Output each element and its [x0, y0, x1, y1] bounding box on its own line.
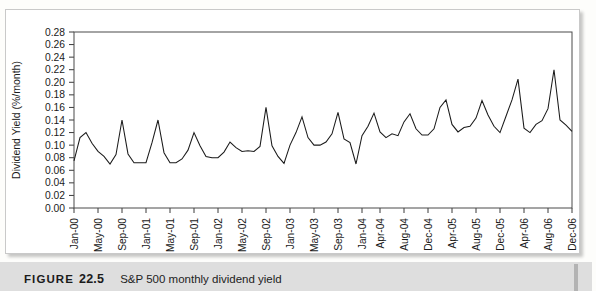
- figure-caption-bar: FIGURE22.5S&P 500 monthly dividend yield: [0, 262, 592, 291]
- x-tick-label: Dec-04: [423, 218, 434, 251]
- scanned-page-background: Dividend Yield (%/month) 0.000.020.040.0…: [0, 0, 596, 291]
- plot-area-border: [74, 32, 572, 208]
- x-tick-label: May-00: [93, 218, 104, 252]
- x-tick-label: Jan-00: [69, 218, 80, 249]
- caption-figure-word: FIGURE: [24, 273, 74, 285]
- x-tick-label: Apr-04: [375, 218, 386, 249]
- x-tick-label: Aug-06: [543, 218, 554, 251]
- x-tick-label: May-01: [165, 218, 176, 252]
- y-axis-title-group: Dividend Yield (%/month): [10, 61, 22, 179]
- x-tick-label: Jan-02: [213, 218, 224, 249]
- x-tick-label: Sep-00: [117, 218, 128, 251]
- caption-figure-number: 22.5: [79, 272, 104, 286]
- x-tick-label: Dec-05: [495, 218, 506, 251]
- y-tick-label: 0.12: [45, 127, 65, 138]
- y-axis-title: Dividend Yield (%/month): [10, 61, 22, 179]
- figure-caption: FIGURE22.5S&P 500 monthly dividend yield: [24, 269, 282, 287]
- figure-frame: Dividend Yield (%/month) 0.000.020.040.0…: [5, 9, 580, 254]
- x-tick-label: Apr-05: [447, 218, 458, 249]
- y-tick-label: 0.20: [45, 77, 65, 88]
- y-axis-ticks-group: 0.000.020.040.060.080.100.120.140.160.18…: [45, 27, 74, 214]
- dividend-yield-chart: Dividend Yield (%/month) 0.000.020.040.0…: [6, 10, 581, 255]
- y-tick-label: 0.18: [45, 89, 65, 100]
- caption-title: S&P 500 monthly dividend yield: [120, 273, 282, 285]
- x-axis-ticks-group: Jan-00May-00Sep-00Jan-01May-01Sep-01Jan-…: [69, 208, 578, 252]
- y-tick-label: 0.16: [45, 102, 65, 113]
- y-tick-label: 0.00: [45, 203, 65, 214]
- x-tick-label: Jan-01: [141, 218, 152, 249]
- x-tick-label: Aug-05: [471, 218, 482, 251]
- y-tick-label: 0.28: [45, 27, 65, 38]
- plot-frame-group: [74, 32, 572, 208]
- y-tick-label: 0.02: [45, 190, 65, 201]
- chart-svg: Dividend Yield (%/month) 0.000.020.040.0…: [6, 10, 581, 255]
- x-tick-label: Sep-01: [189, 218, 200, 251]
- x-tick-label: Sep-03: [333, 218, 344, 251]
- x-tick-label: Jan-04: [357, 218, 368, 249]
- y-tick-label: 0.10: [45, 140, 65, 151]
- x-tick-label: Dec-06: [567, 218, 578, 251]
- y-tick-label: 0.26: [45, 39, 65, 50]
- x-tick-label: Sep-02: [261, 218, 272, 251]
- x-tick-label: May-03: [309, 218, 320, 252]
- y-tick-label: 0.24: [45, 52, 65, 63]
- y-tick-label: 0.06: [45, 165, 65, 176]
- x-tick-label: Apr-06: [519, 218, 530, 249]
- y-tick-label: 0.22: [45, 64, 65, 75]
- y-tick-label: 0.14: [45, 115, 65, 126]
- x-tick-label: Jan-03: [285, 218, 296, 249]
- y-tick-label: 0.08: [45, 152, 65, 163]
- x-tick-label: Aug-04: [399, 218, 410, 251]
- y-tick-label: 0.04: [45, 177, 65, 188]
- x-tick-label: May-02: [237, 218, 248, 252]
